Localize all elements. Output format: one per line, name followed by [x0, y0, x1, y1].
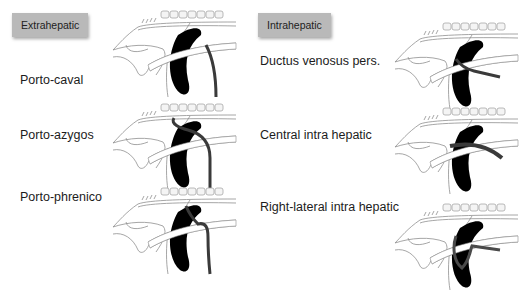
label-ductus-venosus: Ductus venosus pers. [260, 54, 380, 68]
label-porto-phrenico: Porto-phrenico [20, 190, 102, 204]
diagram-porto-azygos [108, 98, 238, 193]
diagram-ductus-venosus [390, 17, 520, 112]
label-central-intra-hepatic: Central intra hepatic [260, 128, 372, 142]
section-heading-extrahepatic: Extrahepatic [12, 13, 88, 37]
diagram-porto-caval [108, 5, 238, 100]
diagram-porto-phrenico [108, 182, 238, 277]
label-right-lateral-intra-hepatic: Right-lateral intra hepatic [260, 200, 399, 214]
diagram-right-lateral-intra-hepatic [390, 198, 520, 293]
diagram-central-intra-hepatic [390, 102, 520, 197]
label-porto-caval: Porto-caval [20, 73, 83, 87]
section-heading-intrahepatic: Intrahepatic [258, 13, 331, 37]
label-porto-azygos: Porto-azygos [20, 128, 94, 142]
